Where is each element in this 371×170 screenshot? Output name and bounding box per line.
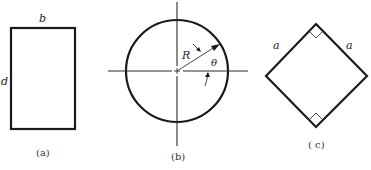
label-radius-R: R [182, 50, 190, 61]
figure-cross-sections: b d (a) R θ (b) a a ( c) [0, 0, 371, 170]
caption-a: (a) [36, 148, 50, 158]
label-side-a-left: a [273, 40, 280, 51]
label-width-b: b [39, 13, 46, 24]
rectangle-outline [11, 28, 75, 129]
right-angle-mark-top-icon [309, 31, 323, 38]
caption-c: ( c) [308, 140, 325, 150]
label-side-a-right: a [346, 40, 353, 51]
panel-a-rectangle [11, 28, 75, 129]
caption-b: (b) [171, 152, 185, 162]
label-angle-theta: θ [211, 58, 217, 68]
angle-arrowhead-icon [205, 72, 210, 77]
right-angle-mark-bottom-icon [309, 113, 323, 120]
panel-b-circle [108, 2, 248, 146]
radius-arrowhead-icon [211, 44, 220, 51]
label-height-d: d [1, 76, 8, 87]
